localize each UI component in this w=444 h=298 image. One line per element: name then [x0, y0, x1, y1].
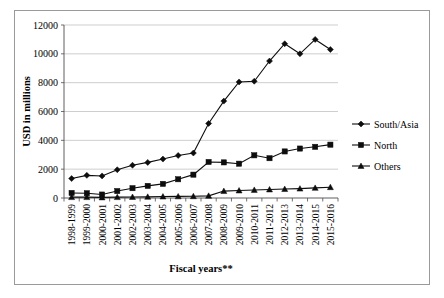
- data-point: [236, 161, 241, 166]
- legend: South/AsiaNorthOthers: [352, 119, 419, 172]
- legend-label: South/Asia: [374, 119, 419, 130]
- x-tick-label: 2012-2013: [280, 204, 290, 245]
- y-tick-label: 6000: [38, 106, 58, 117]
- data-point: [191, 172, 196, 177]
- x-tick-labels-group: 1998-19991999-20002000-20012001-20022002…: [67, 204, 336, 245]
- data-point: [175, 152, 181, 158]
- data-point: [160, 181, 165, 186]
- legend-marker: [358, 121, 364, 127]
- data-point: [221, 160, 226, 165]
- data-point: [267, 156, 272, 161]
- data-point: [252, 153, 257, 158]
- x-tick-label: 2003-2004: [143, 204, 153, 245]
- line-chart-canvas: 020004000600080001000012000 1998-1999199…: [0, 0, 444, 298]
- y-tick-label: 2000: [38, 164, 58, 175]
- data-point: [145, 183, 150, 188]
- data-point: [99, 173, 105, 179]
- x-tick-label: 2008-2009: [219, 204, 229, 245]
- series-line: [72, 39, 331, 178]
- x-tick-label: 2002-2003: [128, 204, 138, 245]
- data-point: [145, 159, 151, 165]
- data-point: [206, 159, 211, 164]
- data-point: [84, 172, 90, 178]
- data-point: [130, 162, 136, 168]
- data-point: [282, 149, 287, 154]
- x-tick-label: 2001-2002: [113, 204, 123, 245]
- x-tick-label: 2006-2007: [189, 204, 199, 245]
- data-point: [114, 167, 120, 173]
- data-point: [206, 120, 212, 126]
- data-point: [115, 188, 120, 193]
- y-tick-label: 4000: [38, 135, 58, 146]
- data-point: [327, 47, 333, 53]
- gridlines-group: [64, 25, 338, 169]
- x-tick-label: 2015-2016: [326, 204, 336, 245]
- legend-marker: [358, 142, 363, 147]
- chart-figure: 020004000600080001000012000 1998-1999199…: [0, 0, 444, 298]
- x-tick-label: 1998-1999: [67, 204, 77, 245]
- data-point: [328, 142, 333, 147]
- data-point: [130, 186, 135, 191]
- y-tick-label: 12000: [33, 20, 58, 31]
- series-others: [69, 184, 334, 200]
- data-series-group: [69, 36, 334, 199]
- data-point: [176, 177, 181, 182]
- x-tick-label: 2004-2005: [158, 204, 168, 245]
- x-tick-label: 2010-2011: [250, 204, 260, 245]
- x-tick-label: 2014-2015: [311, 204, 321, 245]
- data-point: [190, 150, 196, 156]
- legend-label: North: [374, 140, 397, 151]
- y-tick-label: 10000: [33, 48, 58, 59]
- x-tick-label: 2013-2014: [295, 204, 305, 245]
- x-axis-title: Fiscal years**: [169, 263, 232, 274]
- y-axis-title: USD in millions: [21, 76, 32, 147]
- y-tick-label: 0: [53, 193, 58, 204]
- x-tick-label: 2007-2008: [204, 204, 214, 245]
- x-tick-label: 2009-2010: [235, 204, 245, 245]
- data-point: [297, 146, 302, 151]
- data-point: [69, 176, 75, 182]
- data-point: [313, 144, 318, 149]
- x-tick-label: 2000-2001: [98, 204, 108, 245]
- legend-label: Others: [374, 161, 401, 172]
- y-tick-labels-group: 020004000600080001000012000: [33, 20, 58, 204]
- series-line: [72, 145, 331, 195]
- data-point: [160, 156, 166, 162]
- x-tick-label: 2005-2006: [174, 204, 184, 245]
- x-tick-label: 1999-2000: [82, 204, 92, 245]
- x-tick-label: 2011-2012: [265, 204, 275, 245]
- series-south-asia: [69, 36, 334, 181]
- y-tick-label: 8000: [38, 77, 58, 88]
